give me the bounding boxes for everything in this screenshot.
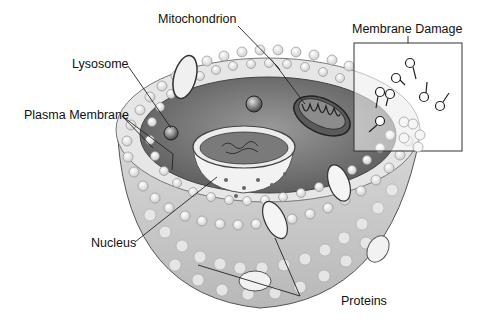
membrane-damage-region: [354, 36, 462, 152]
label-nucleus: Nucleus: [91, 236, 136, 250]
label-proteins: Proteins: [341, 294, 387, 308]
cell-illustration: [0, 0, 483, 328]
label-lysosome: Lysosome: [72, 57, 129, 71]
label-membrane-damage: Membrane Damage: [352, 22, 462, 36]
label-plasma-membrane: Plasma Membrane: [24, 108, 129, 122]
label-mitochondrion: Mitochondrion: [158, 12, 237, 26]
